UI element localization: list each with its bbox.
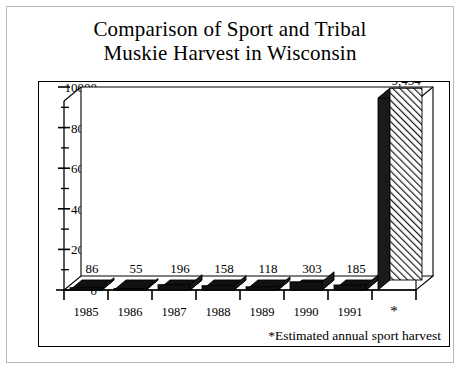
chart-title-line-2: Muskie Harvest in Wisconsin	[40, 42, 420, 66]
chart-footnote: *Estimated annual sport harvest	[268, 329, 441, 343]
chart-title: Comparison of Sport and Tribal Muskie Ha…	[40, 18, 420, 65]
bar-estimated-sport-harvest	[378, 88, 422, 290]
chart-3d-canvas	[39, 82, 450, 347]
chart-figure: Comparison of Sport and Tribal Muskie Ha…	[0, 0, 460, 369]
corner-connector-top-left	[64, 87, 81, 101]
y-axis-minor-ticks	[61, 107, 69, 269]
chart-plot-box: 10000 8000 6000 4000 2000 0	[38, 81, 450, 347]
chart-title-line-1: Comparison of Sport and Tribal	[40, 18, 420, 42]
x-axis-ticks	[64, 290, 416, 300]
